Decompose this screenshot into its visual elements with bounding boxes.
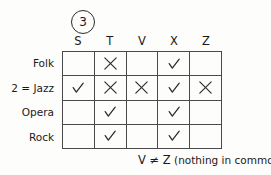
grid-cell-opera-z[interactable] bbox=[190, 101, 221, 124]
check-mark-icon bbox=[167, 81, 181, 95]
grid-cell-rock-v[interactable] bbox=[127, 125, 159, 148]
grid-cell-folk-z[interactable] bbox=[190, 52, 221, 75]
row-label-folk: Folk bbox=[0, 51, 58, 76]
grid-cell-jazz-v[interactable] bbox=[127, 76, 159, 99]
row-label-jazz: 2 = Jazz bbox=[0, 76, 58, 101]
grid-cell-jazz-x[interactable] bbox=[158, 76, 190, 99]
table-row bbox=[63, 76, 221, 100]
row-label-column: Folk2 = JazzOperaRock bbox=[0, 51, 58, 149]
column-header-s: S bbox=[62, 33, 94, 50]
check-mark-icon bbox=[71, 81, 85, 95]
footer-expression: V ≠ Z bbox=[138, 153, 171, 167]
table-row bbox=[63, 52, 221, 76]
grid-cell-rock-z[interactable] bbox=[190, 125, 221, 148]
x-mark-icon bbox=[103, 56, 118, 71]
column-header-x: X bbox=[158, 33, 190, 50]
grid-cell-folk-v[interactable] bbox=[127, 52, 159, 75]
grid-cell-opera-t[interactable] bbox=[95, 101, 127, 124]
table-row bbox=[63, 101, 221, 125]
x-mark-icon bbox=[198, 80, 213, 95]
x-mark-icon bbox=[134, 80, 149, 95]
table-row bbox=[63, 125, 221, 148]
grid-cell-folk-s[interactable] bbox=[63, 52, 95, 75]
check-mark-icon bbox=[103, 129, 117, 143]
column-header-z: Z bbox=[190, 33, 222, 50]
grid-cell-folk-t[interactable] bbox=[95, 52, 127, 75]
check-mark-icon bbox=[167, 105, 181, 119]
check-mark-icon bbox=[103, 105, 117, 119]
footer-note: V ≠ Z (nothing in common) bbox=[138, 153, 271, 167]
grid-cell-opera-x[interactable] bbox=[158, 101, 190, 124]
grid-cell-jazz-z[interactable] bbox=[190, 76, 221, 99]
grid-cell-rock-x[interactable] bbox=[158, 125, 190, 148]
worksheet-page: 3 STVXZ Folk2 = JazzOperaRock V ≠ Z (not… bbox=[0, 0, 271, 175]
problem-number-label: 3 bbox=[79, 16, 87, 28]
row-label-opera: Opera bbox=[0, 100, 58, 125]
grid-cell-jazz-t[interactable] bbox=[95, 76, 127, 99]
x-mark-icon bbox=[103, 80, 118, 95]
grid-cell-opera-s[interactable] bbox=[63, 101, 95, 124]
logic-grid-table bbox=[62, 51, 222, 149]
problem-number-badge: 3 bbox=[71, 10, 95, 34]
check-mark-icon bbox=[167, 129, 181, 143]
grid-cell-rock-s[interactable] bbox=[63, 125, 95, 148]
grid-cell-opera-v[interactable] bbox=[127, 101, 159, 124]
grid-cell-folk-x[interactable] bbox=[158, 52, 190, 75]
column-header-v: V bbox=[126, 33, 158, 50]
column-header-t: T bbox=[94, 33, 126, 50]
row-label-rock: Rock bbox=[0, 125, 58, 150]
check-mark-icon bbox=[167, 57, 181, 71]
grid-cell-rock-t[interactable] bbox=[95, 125, 127, 148]
grid-cell-jazz-s[interactable] bbox=[63, 76, 95, 99]
footer-note-text: (nothing in common) bbox=[171, 154, 271, 166]
column-header-row: STVXZ bbox=[62, 33, 222, 50]
